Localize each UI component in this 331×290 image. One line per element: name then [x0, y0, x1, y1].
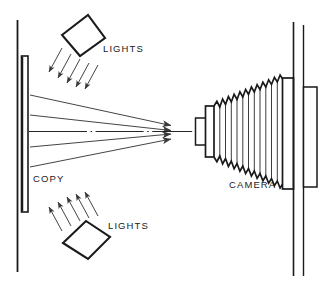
film-holder: [304, 87, 318, 187]
top-lights-label: LIGHTS: [103, 43, 144, 54]
diagram-canvas: COPY LIGHTS: [0, 0, 331, 290]
copy-board: [22, 56, 29, 212]
copy-camera-diagram: COPY LIGHTS: [0, 0, 331, 290]
camera-label: CAMERA: [229, 179, 276, 190]
lens-flange: [206, 106, 215, 157]
bottom-lights-label: LIGHTS: [108, 220, 149, 231]
copy-label: COPY: [33, 173, 64, 184]
camera-back-plate: [283, 78, 294, 189]
lens-barrel: [196, 118, 207, 145]
